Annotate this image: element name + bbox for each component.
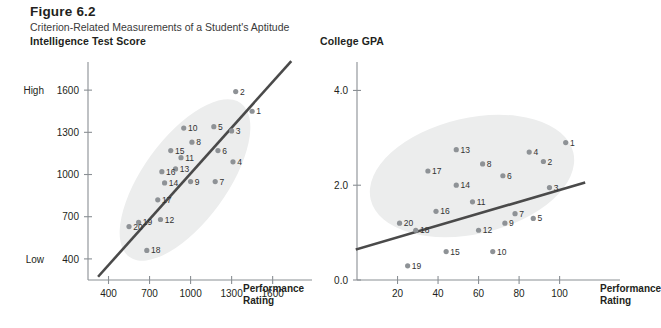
data-point <box>213 179 218 184</box>
x-axis-title-left: Performance Rating <box>243 283 304 306</box>
data-point <box>444 249 449 254</box>
data-point-label: 7 <box>219 177 224 187</box>
data-point <box>233 89 238 94</box>
data-point-label: 6 <box>507 171 512 181</box>
data-point <box>454 147 459 152</box>
data-point <box>470 199 475 204</box>
data-point-label: 7 <box>519 209 524 219</box>
data-point <box>215 148 220 153</box>
data-point <box>433 209 438 214</box>
x-tick-label: 700 <box>141 288 158 299</box>
data-point-label: 9 <box>195 177 200 187</box>
data-point-label: 12 <box>165 215 175 225</box>
y-tick-label: 4.0 <box>334 85 348 96</box>
y-tick-label: 1000 <box>57 169 80 180</box>
data-cloud-ellipse <box>358 96 587 256</box>
y-tick-label: 1600 <box>57 85 80 96</box>
data-point-label: 15 <box>450 247 460 257</box>
x-tick-label: 100 <box>551 288 568 299</box>
data-point-label: 3 <box>554 183 559 193</box>
data-point-label: 2 <box>240 87 245 97</box>
data-point <box>211 124 216 129</box>
y-tick-label: 0.0 <box>334 275 348 286</box>
data-point <box>162 180 167 185</box>
data-point-label: 10 <box>497 247 507 257</box>
data-point <box>126 224 131 229</box>
x-tick-label: 60 <box>473 288 485 299</box>
data-point <box>500 173 505 178</box>
data-point-label: 20 <box>404 218 414 228</box>
data-point <box>502 221 507 226</box>
scatter-chart-intelligence: 400700100013001600HighLow400700100013001… <box>23 62 312 299</box>
y-tick-label: 700 <box>62 211 79 222</box>
data-point-label: 3 <box>236 126 241 136</box>
data-point-label: 11 <box>185 153 194 163</box>
data-point <box>155 197 160 202</box>
data-point-label: 13 <box>180 164 190 174</box>
trend-line <box>99 62 290 276</box>
x-tick-label: 1000 <box>179 288 202 299</box>
y-tick-label: 2.0 <box>334 180 348 191</box>
data-point <box>454 183 459 188</box>
x-axis-title-left-line2: Rating <box>243 295 274 306</box>
data-point-label: 14 <box>460 180 470 190</box>
x-tick-label: 1300 <box>220 288 243 299</box>
data-point-label: 8 <box>487 159 492 169</box>
data-point <box>250 109 255 114</box>
data-point <box>531 216 536 221</box>
data-point-label: 8 <box>196 137 201 147</box>
x-axis-title-left-line1: Performance <box>243 283 304 294</box>
data-point-label: 5 <box>537 213 542 223</box>
data-point <box>541 159 546 164</box>
data-point <box>490 249 495 254</box>
data-point <box>144 248 149 253</box>
data-point <box>159 169 164 174</box>
scatter-chart-gpa: 0.02.04.02040608010012345678910111213141… <box>334 62 620 299</box>
data-point <box>230 159 235 164</box>
data-point <box>405 263 410 268</box>
data-point <box>397 221 402 226</box>
data-point-label: 5 <box>218 122 223 132</box>
data-point <box>476 228 481 233</box>
data-point-label: 18 <box>420 225 430 235</box>
y-tick-label: 400 <box>62 254 79 265</box>
data-point-label: 19 <box>143 217 153 227</box>
data-point <box>425 168 430 173</box>
x-tick-label: 80 <box>514 288 526 299</box>
data-point <box>189 140 194 145</box>
x-axis-title-right-line1: Performance <box>600 283 661 294</box>
data-point <box>563 140 568 145</box>
x-tick-label: 40 <box>432 288 444 299</box>
data-point-label: 16 <box>166 167 176 177</box>
data-point <box>512 211 517 216</box>
data-point-label: 1 <box>570 138 575 148</box>
data-point <box>168 148 173 153</box>
data-point-label: 9 <box>509 218 514 228</box>
data-point-label: 6 <box>222 146 227 156</box>
x-tick-label: 20 <box>392 288 404 299</box>
y-axis-high-label: High <box>23 85 44 96</box>
data-point-label: 12 <box>483 225 493 235</box>
data-point-label: 16 <box>440 206 450 216</box>
data-point-label: 17 <box>162 195 172 205</box>
data-point-label: 2 <box>548 157 553 167</box>
data-point-label: 4 <box>237 157 242 167</box>
data-point-label: 4 <box>533 147 538 157</box>
x-axis-title-right: Performance Rating <box>600 283 661 306</box>
data-point <box>547 185 552 190</box>
data-point <box>178 155 183 160</box>
data-point-label: 17 <box>432 166 442 176</box>
y-axis-low-label: Low <box>26 254 45 265</box>
data-point-label: 1 <box>256 106 261 116</box>
data-point <box>527 149 532 154</box>
data-point <box>480 161 485 166</box>
data-point <box>181 126 186 131</box>
data-point-label: 14 <box>169 178 179 188</box>
data-point-label: 11 <box>477 197 486 207</box>
x-axis-title-right-line2: Rating <box>600 295 631 306</box>
x-tick-label: 400 <box>100 288 117 299</box>
y-tick-label: 1300 <box>57 127 80 138</box>
data-point-label: 15 <box>175 146 185 156</box>
data-point <box>229 128 234 133</box>
